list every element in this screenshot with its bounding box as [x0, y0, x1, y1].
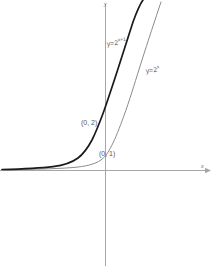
point-label-0-2: (0, 2): [81, 119, 97, 126]
curve-y-equals-2-to-the-x: [2, 2, 161, 170]
point-label-0-1: (0, 1): [99, 150, 115, 157]
y-axis-label: y: [104, 1, 107, 7]
curve-label-1-exponent: x+1: [117, 36, 126, 43]
x-axis-label: x: [201, 163, 204, 169]
curve-label-y-2-x: y=2x: [145, 64, 160, 74]
curve-y-equals-2-to-the-x-plus-1: [2, 0, 143, 170]
x-axis-arrowhead: [205, 168, 211, 173]
curve-label-2-exponent: x: [156, 63, 159, 69]
exponential-functions-graph: y=2x+1 y=2x (0, 2) (0, 1) y x: [0, 0, 216, 277]
